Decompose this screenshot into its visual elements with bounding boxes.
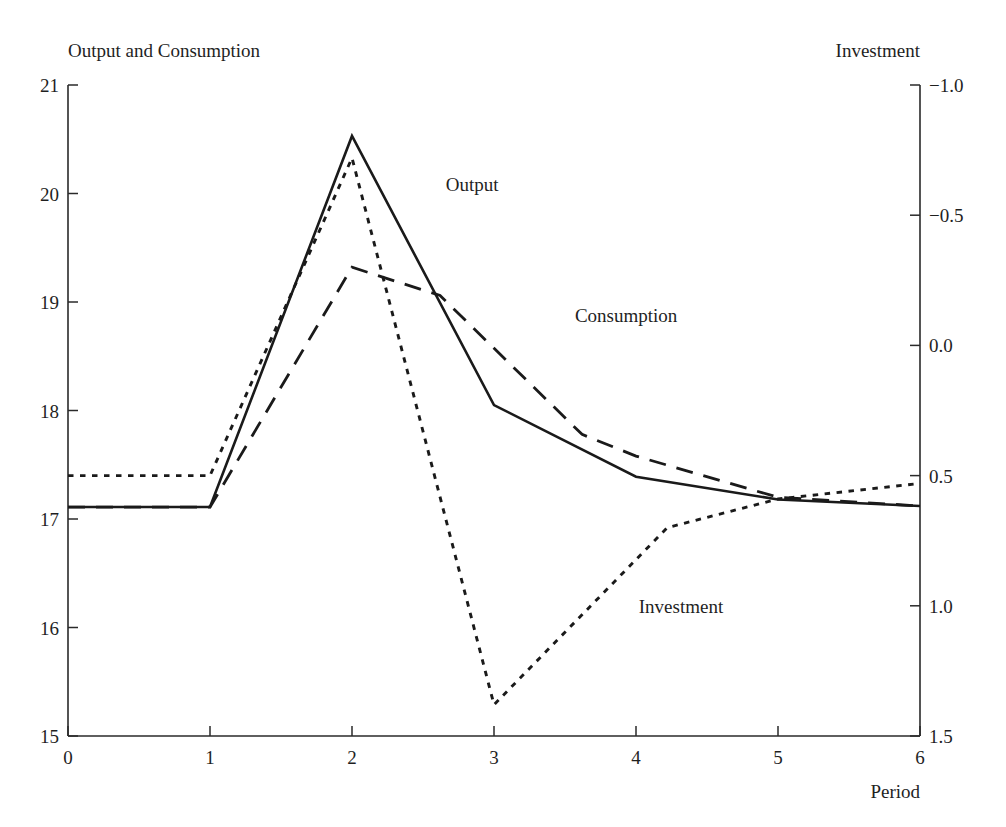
left-axis-tick-labels: 15161718192021 <box>40 75 59 747</box>
right-tick-label: 1.0 <box>929 596 953 617</box>
left-tick-label: 17 <box>40 509 59 530</box>
left-tick-label: 18 <box>40 401 59 422</box>
series-label-consumption: Consumption <box>575 305 678 326</box>
right-tick-label: 0.5 <box>929 466 953 487</box>
right-tick-label: −0.5 <box>929 205 963 226</box>
x-tick-label: 6 <box>915 747 925 768</box>
left-tick-label: 21 <box>40 75 59 96</box>
right-tick-label: 1.5 <box>929 726 953 747</box>
right-tick-label: 0.0 <box>929 335 953 356</box>
left-tick-label: 15 <box>40 726 59 747</box>
right-tick-label: −1.0 <box>929 75 963 96</box>
left-tick-label: 16 <box>40 618 59 639</box>
x-axis-tick-labels: 0123456 <box>63 747 925 768</box>
left-axis-title: Output and Consumption <box>68 40 261 61</box>
left-tick-label: 20 <box>40 184 59 205</box>
left-tick-label: 19 <box>40 292 59 313</box>
right-axis-ticks <box>910 85 920 736</box>
x-axis-title: Period <box>870 781 920 802</box>
left-axis-ticks <box>68 85 78 736</box>
x-tick-label: 5 <box>773 747 783 768</box>
impulse-response-chart: Output and Consumption Investment Period… <box>0 0 1006 827</box>
series-label-output: Output <box>446 174 500 195</box>
x-axis-ticks <box>68 726 920 736</box>
x-tick-label: 3 <box>489 747 499 768</box>
right-axis-tick-labels: 1.51.00.50.0−0.5−1.0 <box>929 75 963 747</box>
series-line-consumption <box>68 267 920 507</box>
x-tick-label: 0 <box>63 747 73 768</box>
series-label-investment: Investment <box>639 596 724 617</box>
series-line-investment <box>68 158 920 705</box>
x-tick-label: 2 <box>347 747 357 768</box>
x-tick-label: 1 <box>205 747 215 768</box>
chart-figure: Output and Consumption Investment Period… <box>0 0 1006 827</box>
right-axis-title: Investment <box>836 40 921 61</box>
x-tick-label: 4 <box>631 747 641 768</box>
